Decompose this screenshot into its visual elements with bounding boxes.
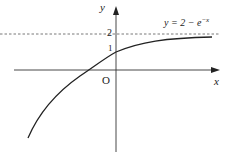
y-axis-arrow-icon [113, 6, 119, 15]
function-graph: y x O 2 1 y = 2 − e−x [0, 0, 234, 152]
y-axis-label: y [100, 2, 105, 13]
x-axis-arrow-icon [211, 67, 220, 73]
x-axis-label: x [214, 76, 219, 87]
tick-label-1: 1 [108, 44, 113, 53]
origin-label: O [102, 75, 110, 86]
tick-label-2: 2 [107, 28, 112, 38]
function-label: y = 2 − e−x [164, 17, 209, 28]
curve [28, 37, 212, 138]
